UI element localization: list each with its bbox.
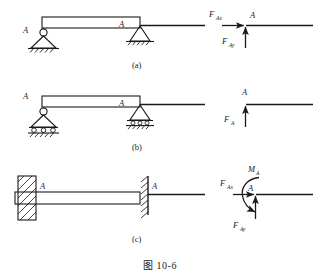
row-label-a: (a) bbox=[132, 60, 142, 70]
force-label-fay-sub: Ay bbox=[239, 226, 246, 232]
wall-hatching-schematic bbox=[141, 176, 148, 218]
row-c: A A bbox=[15, 164, 313, 244]
beam-bar bbox=[42, 96, 140, 107]
support-triangle bbox=[31, 115, 56, 127]
point-label-a-fbd: A bbox=[241, 87, 248, 97]
force-label-fa-sub: A bbox=[230, 120, 235, 126]
figure-10-6: A A F bbox=[0, 0, 320, 278]
figure-canvas: A A F bbox=[0, 0, 320, 278]
row-b: A A bbox=[22, 87, 313, 152]
moment-label-ma-sub: A bbox=[255, 170, 260, 176]
point-label-a-schematic: A bbox=[118, 98, 125, 108]
point-label-a-schematic: A bbox=[118, 19, 125, 29]
row-c-schematic: A bbox=[141, 176, 205, 218]
force-label-fax-sub: Ax bbox=[215, 15, 222, 21]
support-triangle bbox=[31, 36, 56, 48]
force-label-fay: F bbox=[221, 36, 228, 46]
row-a-fbd: F Ax F Ay A bbox=[208, 9, 313, 48]
pin-circle bbox=[40, 108, 47, 115]
beam-bar bbox=[42, 17, 140, 28]
ground-hatching-schematic bbox=[128, 126, 149, 130]
row-b-fbd: F A A bbox=[223, 87, 313, 127]
row-a: A A F bbox=[22, 9, 313, 70]
pin-circle bbox=[40, 29, 47, 36]
point-label-a-pictorial: A bbox=[22, 25, 29, 35]
force-label-fa: F bbox=[223, 114, 230, 124]
point-label-a-fbd: A bbox=[249, 10, 256, 20]
point-label-a-fbd: A bbox=[247, 183, 254, 193]
ground-hatching bbox=[30, 133, 54, 137]
row-label-b: (b) bbox=[132, 142, 142, 152]
ground-hatching bbox=[30, 49, 54, 53]
row-c-pictorial: A bbox=[15, 176, 140, 220]
force-label-fax: F bbox=[208, 9, 215, 19]
wall-hatching bbox=[18, 176, 36, 220]
roller-wheels bbox=[32, 128, 56, 133]
point-label-a-schematic: A bbox=[151, 181, 158, 191]
point-label-a-pictorial: A bbox=[22, 91, 29, 101]
force-label-fay-sub: Ay bbox=[228, 42, 235, 48]
force-label-fax: F bbox=[219, 178, 226, 188]
force-label-fay: F bbox=[232, 220, 239, 230]
roller-wheels-schematic bbox=[131, 121, 149, 125]
point-label-a-pictorial: A bbox=[39, 181, 46, 191]
moment-label-ma: M bbox=[247, 164, 256, 174]
row-a-schematic: A bbox=[118, 19, 205, 45]
ground-hatching-schematic bbox=[128, 42, 149, 46]
row-label-c: (c) bbox=[132, 234, 142, 244]
row-c-fbd: F Ax F Ay M A A bbox=[219, 164, 313, 232]
force-label-fax-sub: Ax bbox=[226, 184, 233, 190]
figure-caption: 图 10-6 bbox=[0, 257, 320, 272]
row-b-schematic: A bbox=[118, 98, 205, 129]
